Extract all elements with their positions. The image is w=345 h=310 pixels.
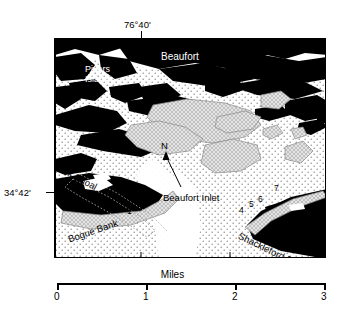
map-frame[interactable]: Beaufort Pivers Island Shark Shoal Beauf…: [54, 38, 326, 258]
map-figure: 76°40' 34°42': [0, 0, 345, 310]
scalebar-number-0: 0: [54, 291, 60, 302]
map-canvas: [55, 39, 326, 258]
scalebar-tick-3: [324, 283, 326, 290]
scalebar-number-3: 3: [321, 291, 327, 302]
scalebar-number-2: 2: [232, 291, 238, 302]
scalebar-unit-label: Miles: [0, 269, 345, 280]
scalebar-tick-0: [57, 283, 59, 290]
scalebar-number-1: 1: [143, 291, 149, 302]
scalebar-tick-1: [146, 283, 148, 290]
scalebar-line: [57, 283, 325, 285]
map-layers: [55, 39, 326, 258]
latitude-label: 34°42': [4, 188, 31, 198]
scalebar-tick-2: [235, 283, 237, 290]
longitude-label: 76°40': [124, 20, 151, 30]
